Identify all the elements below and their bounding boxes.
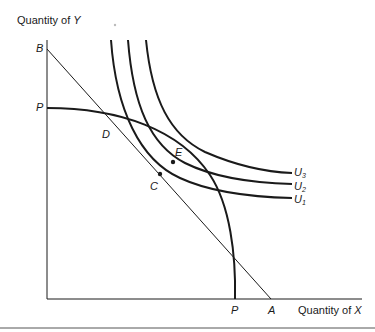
u3-base: U — [294, 166, 302, 178]
indifference-curve-u1 — [111, 40, 292, 198]
indifference-curve-u2 — [128, 40, 292, 184]
u3-sub: 3 — [302, 172, 306, 179]
label-b: B — [36, 42, 43, 54]
x-axis-label-var: X — [354, 304, 361, 316]
production-possibility-curve — [47, 108, 235, 299]
label-p-y: P — [36, 101, 43, 113]
stray-mark — [114, 24, 116, 26]
label-c: C — [150, 180, 158, 192]
u1-base: U — [294, 193, 302, 205]
point-e — [171, 160, 175, 164]
label-e: E — [175, 146, 182, 158]
label-u1: U1 — [294, 193, 306, 206]
y-axis-label-var: Y — [73, 14, 80, 26]
label-a: A — [268, 304, 275, 316]
y-axis-label: Quantity of Y — [17, 14, 81, 26]
u1-sub: 1 — [302, 199, 306, 206]
label-p-x: P — [231, 304, 238, 316]
diagram-canvas — [0, 0, 375, 332]
x-axis-label: Quantity of X — [298, 304, 362, 316]
y-axis-label-prefix: Quantity of — [17, 14, 70, 26]
indifference-curve-u3 — [146, 40, 292, 173]
u2-base: U — [294, 180, 302, 192]
x-axis-label-prefix: Quantity of — [298, 304, 351, 316]
u2-sub: 2 — [302, 186, 306, 193]
label-d: D — [102, 128, 110, 140]
label-u3: U3 — [294, 166, 306, 179]
label-u2: U2 — [294, 180, 306, 193]
point-c — [158, 172, 162, 176]
